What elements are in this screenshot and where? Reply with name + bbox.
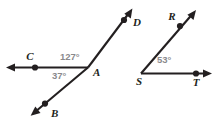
angle-label-cad: 127° xyxy=(60,51,80,62)
geometry-diagram: C D B A 127° 37° R S T 53° xyxy=(0,0,221,124)
ray-st-arrowhead-icon xyxy=(203,69,212,77)
point-b-dot xyxy=(42,101,48,107)
angle-label-rst: 53° xyxy=(157,54,172,65)
angle-label-cab: 37° xyxy=(52,70,67,81)
point-c-dot xyxy=(32,64,38,70)
ray-ac-arrowhead-icon xyxy=(6,63,15,71)
point-label-b: B xyxy=(50,107,58,119)
point-d-dot xyxy=(121,17,127,23)
point-label-a: A xyxy=(92,66,100,78)
point-label-c: C xyxy=(26,50,34,62)
point-label-t: T xyxy=(193,76,201,88)
geometry-canvas: C D B A 127° 37° R S T 53° xyxy=(0,0,221,124)
point-label-d: D xyxy=(132,16,141,28)
point-label-s: S xyxy=(136,75,142,87)
point-label-r: R xyxy=(167,10,175,22)
point-r-dot xyxy=(177,23,183,29)
